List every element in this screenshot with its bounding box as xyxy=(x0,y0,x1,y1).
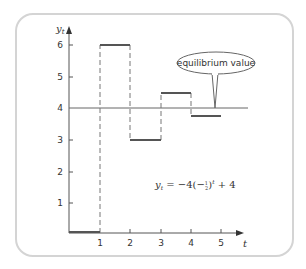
step-chart: 1 2 3 4 5 6 1 2 3 4 5 yt t xyxy=(0,0,306,269)
x-tick-label: 1 xyxy=(97,238,103,248)
formula: yt = −4(−12)t + 4 xyxy=(154,178,236,191)
y-axis-arrow-icon xyxy=(66,26,72,34)
y-tick-label: 6 xyxy=(57,40,63,50)
y-tick-label: 1 xyxy=(57,198,63,208)
x-axis-label: t xyxy=(243,238,248,249)
callout-label: equilibrium value xyxy=(177,58,256,68)
y-axis-label: yt xyxy=(55,23,65,36)
y-axis xyxy=(66,26,72,233)
x-tick-label: 4 xyxy=(188,238,194,248)
x-tick-label: 5 xyxy=(218,238,224,248)
y-ticks: 1 2 3 4 5 6 xyxy=(57,40,73,208)
x-ticks: 1 2 3 4 5 xyxy=(97,229,224,248)
y-tick-label: 4 xyxy=(57,103,63,113)
y-tick-label: 3 xyxy=(57,135,63,145)
x-tick-label: 3 xyxy=(158,238,164,248)
x-tick-label: 2 xyxy=(127,238,133,248)
y-tick-label: 2 xyxy=(57,167,63,177)
equilibrium-callout: equilibrium value xyxy=(177,52,256,108)
x-axis-arrow-icon xyxy=(236,230,244,236)
y-tick-label: 5 xyxy=(57,72,63,82)
